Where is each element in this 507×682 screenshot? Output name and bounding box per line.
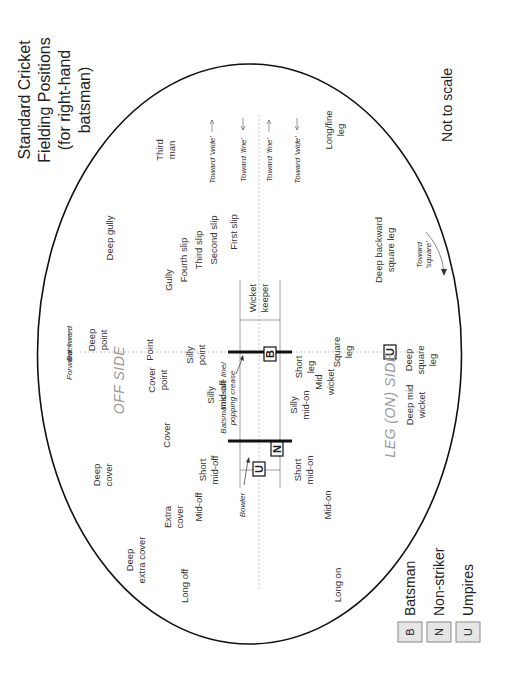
pos-deep-backward-square-leg: Deep backward — [373, 217, 384, 283]
svg-text:U: U — [462, 628, 474, 636]
pos-mid-wicket: Mid — [313, 374, 324, 389]
forward-backward-indicator: Forward Backward — [65, 325, 74, 380]
pos-gully: Gully — [163, 269, 174, 291]
pos-short-mid-on: Short — [292, 458, 303, 481]
svg-text:man: man — [166, 141, 177, 159]
pos-deep-mid-wicket: Deep mid — [404, 385, 415, 426]
not-to-scale-note: Not to scale — [439, 68, 455, 142]
svg-text:Toward 'fine': Toward 'fine' — [239, 137, 248, 182]
svg-text:square: square — [415, 345, 426, 374]
svg-text:Toward 'wide': Toward 'wide' — [293, 136, 302, 184]
svg-text:Toward: Toward — [415, 241, 424, 267]
legend: B Batsman N Non-striker U Umpires — [398, 547, 480, 642]
title-line-1: Standard Cricket — [16, 40, 33, 160]
svg-text:leg: leg — [335, 124, 346, 137]
toward-fine-off: Toward 'fine' — [239, 118, 248, 182]
svg-text:B: B — [264, 350, 276, 358]
toward-square: Toward 'square' — [415, 232, 447, 276]
pos-mid-off: Mid-off — [193, 492, 204, 521]
pos-deep-point: Deep — [86, 329, 97, 352]
legend-label-batsman: Batsman — [402, 561, 418, 616]
svg-text:N: N — [271, 445, 283, 453]
title-line-2: Fielding Positions — [36, 37, 53, 162]
svg-text:leg: leg — [305, 361, 316, 374]
umpire-marker-bowler-end: U — [253, 462, 265, 476]
svg-text:point: point — [98, 329, 109, 350]
svg-text:wicket: wicket — [416, 391, 427, 419]
non-striker-marker: N — [271, 442, 283, 456]
svg-text:'square': 'square' — [424, 241, 433, 269]
svg-text:point: point — [158, 369, 169, 390]
pos-wicket-keeper: Wicket — [247, 283, 258, 312]
svg-text:mid-on: mid-on — [300, 390, 311, 419]
svg-text:point: point — [196, 344, 207, 365]
svg-text:mid-off: mid-off — [209, 455, 220, 484]
pos-second-slip: Second slip — [208, 215, 219, 264]
pos-deep-gully: Deep gully — [104, 215, 115, 260]
toward-wide-leg: Toward 'wide' — [293, 118, 302, 184]
pos-short-mid-off: Short — [197, 458, 208, 481]
toward-fine-leg: Toward 'fine' — [265, 120, 274, 182]
diagram-title: Standard Cricket Fielding Positions (for… — [16, 37, 93, 162]
off-side-label: OFF SIDE — [111, 346, 127, 414]
pos-deep-square-leg: Deep — [403, 349, 414, 372]
svg-text:U: U — [253, 465, 265, 473]
pos-mid-on: Mid-on — [322, 490, 333, 519]
pos-first-slip: First slip — [228, 214, 239, 249]
pos-silly-mid-off: Silly — [205, 386, 216, 404]
svg-text:mid-off: mid-off — [217, 380, 228, 409]
pos-cover-point: Cover — [146, 367, 157, 392]
toward-wide-off: Toward 'wide' — [208, 120, 217, 184]
title-line-3: (for right-hand — [56, 50, 73, 151]
svg-text:leg: leg — [427, 354, 438, 367]
svg-text:extra cover: extra cover — [136, 537, 147, 584]
svg-text:N: N — [433, 628, 445, 636]
pos-third-slip: Third slip — [193, 231, 204, 270]
pos-extra-cover: Extra — [162, 505, 173, 528]
svg-text:mid-on: mid-on — [304, 455, 315, 484]
svg-text:popping crease: popping crease — [228, 370, 237, 426]
legend-item-umpires: U Umpires — [456, 564, 480, 642]
title-line-4: batsman) — [76, 67, 93, 134]
leg-side-label: LEG (ON) SIDE — [382, 352, 398, 457]
svg-text:Toward 'wide': Toward 'wide' — [208, 136, 217, 184]
svg-text:cover: cover — [174, 505, 185, 528]
pos-silly-mid-on: Silly — [288, 396, 299, 414]
pos-square-leg: Square — [331, 337, 342, 368]
pos-point: Point — [144, 339, 155, 361]
pos-fourth-slip: Fourth slip — [178, 238, 189, 282]
cricket-fielding-diagram: Standard Cricket Fielding Positions (for… — [0, 0, 507, 682]
pos-deep-cover: Deep — [91, 464, 102, 487]
svg-text:cover: cover — [103, 463, 114, 486]
pos-cover: Cover — [161, 422, 172, 447]
svg-text:keeper: keeper — [259, 283, 270, 312]
svg-text:wicket: wicket — [325, 368, 336, 396]
pos-long-off: Long off — [179, 569, 190, 604]
svg-text:Bowler: Bowler — [238, 492, 247, 517]
legend-label-umpires: Umpires — [460, 564, 476, 616]
legend-label-non-striker: Non-striker — [431, 547, 447, 616]
pos-short-leg: Short — [293, 355, 304, 378]
svg-text:leg: leg — [343, 346, 354, 359]
pos-third-man: Third — [154, 139, 165, 161]
batsman-marker: B — [264, 347, 276, 361]
svg-text:B: B — [404, 628, 416, 635]
pos-deep-extra-cover: Deep — [124, 549, 135, 572]
svg-text:square leg: square leg — [385, 228, 396, 272]
svg-text:Toward 'fine': Toward 'fine' — [265, 137, 274, 182]
legend-item-non-striker: N Non-striker — [427, 547, 451, 642]
pos-long-fine-leg: Long/fine — [323, 110, 334, 149]
pos-silly-point: Silly — [184, 346, 195, 364]
pos-long-on: Long on — [332, 568, 343, 602]
legend-item-batsman: B Batsman — [398, 561, 422, 642]
